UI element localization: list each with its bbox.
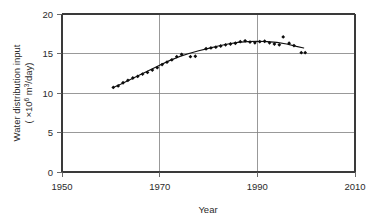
scatter-plot: 20 15 10 5 0 1950 1970 1990 2010 Year Wa…	[0, 0, 382, 224]
ytick-label-0: 0	[48, 167, 53, 178]
xtick-label-1970: 1970	[149, 181, 170, 192]
xtick-label-1950: 1950	[51, 181, 72, 192]
y-axis-title-line1: Water distribution input	[11, 44, 22, 141]
ytick-label-15: 15	[42, 48, 53, 59]
ytick-label-5: 5	[48, 127, 53, 138]
y-axis-title-unit-post: /day)	[23, 63, 34, 84]
ytick-label-20: 20	[42, 9, 53, 20]
y-axis-title-unit-mid: m	[23, 87, 34, 98]
chart-figure: 20 15 10 5 0 1950 1970 1990 2010 Year Wa…	[0, 0, 382, 224]
x-axis-title: Year	[198, 204, 217, 215]
xtick-label-1990: 1990	[247, 181, 268, 192]
ytick-label-10: 10	[42, 88, 53, 99]
y-axis-title-line2: ( ×106 m3/day)	[23, 63, 34, 124]
y-axis-title-unit-pre: ( ×10	[23, 102, 34, 124]
xtick-label-2010: 2010	[344, 181, 365, 192]
